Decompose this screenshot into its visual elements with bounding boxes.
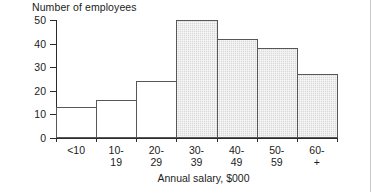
x-tick-label-<10: <10 bbox=[56, 144, 96, 156]
page-edge-rule bbox=[370, 0, 371, 192]
x-tick-label-50-59: 50-59 bbox=[257, 144, 297, 168]
x-tick-label-line: 39 bbox=[176, 156, 216, 168]
x-tick-label-line: 49 bbox=[217, 156, 257, 168]
x-tick-label-40-49: 40-49 bbox=[217, 144, 257, 168]
x-tick-label-30-39: 30-39 bbox=[176, 144, 216, 168]
x-tick-label-line: <10 bbox=[56, 144, 96, 156]
y-axis-title: Number of employees bbox=[32, 1, 137, 13]
x-tick-label-line: 60- bbox=[297, 144, 337, 156]
x-tick-label-line: 40- bbox=[217, 144, 257, 156]
x-tick-3 bbox=[176, 138, 177, 142]
y-tick-label-50: 50 bbox=[22, 15, 46, 26]
x-axis-title-text: Annual salary, $000 bbox=[157, 172, 249, 184]
x-tick-5 bbox=[257, 138, 258, 142]
x-tick-label-10-19: 10-19 bbox=[96, 144, 136, 168]
x-tick-label-line: 59 bbox=[257, 156, 297, 168]
y-tick-label-20: 20 bbox=[22, 86, 46, 97]
y-tick-label-10: 10 bbox=[22, 109, 46, 120]
bar-20-29 bbox=[136, 81, 177, 138]
x-axis-title: Annual salary, $000 bbox=[0, 172, 379, 184]
x-tick-1 bbox=[96, 138, 97, 142]
x-tick-label-line: 29 bbox=[136, 156, 176, 168]
x-tick-label-line: + bbox=[297, 156, 337, 168]
bar-<10 bbox=[56, 107, 97, 138]
y-tick-label-40: 40 bbox=[22, 39, 46, 50]
bar-60-+ bbox=[297, 74, 338, 138]
bar-10-19 bbox=[96, 100, 137, 138]
x-tick-6 bbox=[297, 138, 298, 142]
y-tick-label-0: 0 bbox=[22, 133, 46, 144]
x-tick-label-line: 20- bbox=[136, 144, 176, 156]
x-tick-7 bbox=[337, 138, 338, 142]
x-tick-label-60-+: 60-+ bbox=[297, 144, 337, 168]
x-tick-4 bbox=[217, 138, 218, 142]
plot-area bbox=[56, 20, 337, 138]
x-tick-label-line: 30- bbox=[176, 144, 216, 156]
histogram-figure: Number of employees 01020304050 <1010-19… bbox=[0, 0, 379, 192]
bar-50-59 bbox=[257, 48, 298, 138]
y-tick-label-30: 30 bbox=[22, 62, 46, 73]
x-tick-2 bbox=[136, 138, 137, 142]
x-axis-line bbox=[56, 138, 337, 139]
x-tick-label-line: 10- bbox=[96, 144, 136, 156]
bar-30-39 bbox=[176, 20, 218, 138]
x-tick-label-20-29: 20-29 bbox=[136, 144, 176, 168]
x-tick-label-line: 50- bbox=[257, 144, 297, 156]
x-tick-label-line: 19 bbox=[96, 156, 136, 168]
bar-40-49 bbox=[217, 39, 258, 138]
x-tick-0 bbox=[56, 138, 57, 142]
